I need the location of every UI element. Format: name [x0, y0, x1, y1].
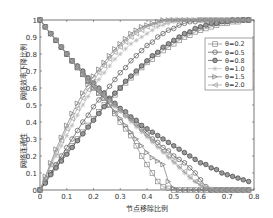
x-axis-label: 节点移除比例: [126, 204, 168, 213]
x-tick-label: 0.5: [168, 193, 179, 201]
y-axis-label-lower: 网络连通性: [19, 133, 28, 168]
x-tick-label: 0: [38, 193, 42, 201]
y-tick-label: 0.1: [26, 170, 37, 178]
x-tick-label: 0.1: [61, 193, 72, 201]
x-tick-label: 0.7: [222, 193, 233, 201]
legend-label: θ=0.2: [225, 40, 245, 48]
y-tick-label: 0.9: [26, 34, 37, 42]
line-chart: 00.10.20.30.40.50.60.70.800.10.20.30.40.…: [0, 0, 273, 218]
x-tick-label: 0.8: [248, 193, 259, 201]
legend-label: θ=1.0: [225, 65, 245, 73]
x-tick-label: 0.2: [88, 193, 99, 201]
y-tick-label: 0.4: [26, 119, 38, 127]
y-axis-label-upper: 网络效率下降比例: [19, 44, 28, 100]
legend-label: θ=2.0: [225, 81, 245, 89]
y-tick-label: 0: [33, 187, 37, 195]
x-tick-label: 0.3: [115, 193, 126, 201]
legend-label: θ=1.5: [225, 73, 245, 81]
x-tick-label: 0.6: [195, 193, 207, 201]
legend: θ=0.2θ=0.5θ=0.8θ=1.0θ=1.5θ=2.0: [205, 38, 253, 90]
legend-label: θ=0.5: [225, 49, 245, 57]
y-tick-label: 1: [33, 17, 37, 25]
x-tick-label: 0.4: [141, 193, 153, 201]
legend-label: θ=0.8: [225, 57, 245, 65]
y-tick-label: 0.5: [26, 102, 37, 110]
